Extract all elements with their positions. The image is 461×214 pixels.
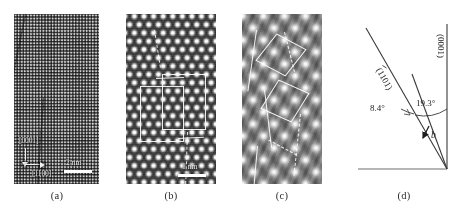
direction-label-horizontal: [1100] [32,169,51,178]
micrograph-figure: [0001] [1100] 2 nm 1 nm [0,0,461,214]
scale-bar-b [178,174,206,177]
plane-label-1101: (1101) [374,66,394,92]
plane-label-0001: (0001) [436,34,446,58]
panel-b-hrtem-image: 1 nm [126,14,216,184]
caption-b: (b) [141,190,201,201]
scale-bar-a [64,170,92,173]
panel-d-schematic: (1101) (0001) 8.4° 19.3° b [352,14,456,184]
panel-a-hrtem-image: [0001] [1100] 2 nm [14,14,99,184]
panel-c-stem-image [242,14,322,184]
caption-a: (a) [27,190,87,201]
unit-cell-outline [162,74,206,130]
angle-label-small: 8.4° [370,103,385,113]
caption-d: (d) [374,190,434,201]
angle-label-large: 19.3° [416,98,436,108]
scale-bar-label-b: 1 nm [182,162,197,171]
schematic-svg: (1101) (0001) 8.4° 19.3° b [352,14,456,184]
direction-arrow-horizontal-head-icon [40,162,45,168]
caption-c: (c) [252,190,312,201]
intermediate-line [412,74,447,169]
noise-overlay-a [14,14,99,184]
direction-label-vertical: [0001] [19,136,38,145]
angle-arc-large [415,109,447,116]
burgers-vector-label: b [431,130,436,140]
scale-bar-label-a: 2 nm [66,158,81,167]
